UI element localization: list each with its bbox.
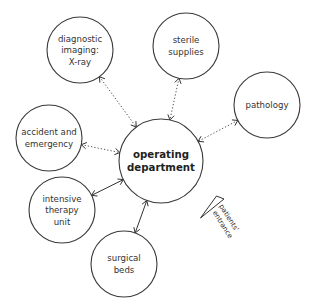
- node-label-line: operating: [133, 149, 189, 160]
- nodes-layer: diagnosticimaging:X-raysterilesuppliespa…: [16, 13, 300, 297]
- node-label-line: intensive: [42, 194, 81, 204]
- node-label-line: pathology: [246, 100, 289, 110]
- node-accident-and-emergency: accident andemergency: [16, 105, 82, 171]
- node-pathology: pathology: [234, 72, 300, 138]
- arrowhead-icon: [198, 136, 204, 142]
- connector-line: [81, 145, 120, 153]
- connector-line: [135, 201, 147, 233]
- link-pathology-to-operating-department: [198, 120, 238, 142]
- connector-line: [170, 78, 179, 120]
- node-label-line: supplies: [168, 47, 204, 57]
- connector-line: [99, 77, 136, 127]
- node-label-line: beds: [114, 265, 135, 275]
- node-label-line: surgical: [107, 253, 141, 263]
- arrowhead-icon: [175, 78, 181, 84]
- link-sterile-supplies-to-operating-department: [168, 78, 181, 120]
- node-intensive-therapy-unit: intensivetherapyunit: [29, 177, 95, 243]
- node-label-line: imaging:: [61, 45, 99, 55]
- node-surgical-beds: surgicalbeds: [91, 231, 157, 297]
- link-diagnostic-imaging-to-operating-department: [99, 77, 136, 127]
- node-label-line: emergency: [25, 139, 73, 149]
- link-surgical-beds-to-operating-department: [134, 201, 148, 233]
- connector-line: [198, 120, 238, 141]
- node-label-line: unit: [54, 217, 71, 227]
- node-label-line: diagnostic: [58, 34, 103, 44]
- node-sterile-supplies: sterilesupplies: [153, 13, 219, 79]
- link-intensive-therapy-unit-to-operating-department: [92, 179, 124, 196]
- arrowhead-icon: [81, 143, 87, 149]
- node-label-line: therapy: [45, 205, 78, 215]
- patients-entrance-marker: patients' entrance: [201, 196, 242, 240]
- node-diagnostic-imaging: diagnosticimaging:X-ray: [47, 17, 113, 83]
- node-label-line: X-ray: [69, 57, 91, 67]
- arrowhead-icon: [232, 120, 238, 126]
- connector-line: [92, 180, 124, 196]
- node-circle: [119, 119, 203, 203]
- node-label-line: department: [127, 162, 195, 173]
- arrowhead-icon: [131, 121, 137, 127]
- link-accident-and-emergency-to-operating-department: [81, 143, 120, 155]
- node-label-line: accident and: [21, 127, 77, 137]
- operating-department-relationship-diagram: diagnosticimaging:X-raysterilesuppliespa…: [0, 0, 318, 307]
- node-label-line: sterile: [173, 35, 200, 45]
- node-operating-department: operatingdepartment: [119, 119, 203, 203]
